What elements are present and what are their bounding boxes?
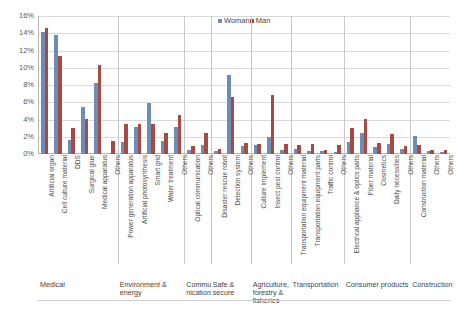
group-label: Construction — [412, 281, 450, 289]
bar-group — [317, 16, 330, 154]
category-label-slot: Others — [237, 155, 250, 259]
bar-man — [284, 144, 288, 154]
bar-group — [51, 16, 64, 154]
bar-man — [124, 124, 128, 154]
y-axis-tick-label: 16% — [2, 12, 34, 20]
bar-man — [164, 133, 168, 154]
category-label-slot: Artificial organ — [38, 155, 51, 259]
y-axis-tick-label: 10% — [2, 64, 34, 72]
category-label-slot: Electrical appliance & optics parts — [344, 155, 357, 259]
category-label-slot: Insect pest control — [264, 155, 277, 259]
bar-man — [111, 141, 115, 154]
bar-group — [424, 16, 437, 154]
group-label: Agriculture, forestry & fisheries — [253, 281, 291, 306]
bar-group — [184, 16, 197, 154]
bar-group — [331, 16, 344, 154]
bar-man — [297, 145, 301, 154]
bar-group — [437, 16, 450, 154]
bar-man — [350, 128, 354, 154]
y-axis-tick-label: 14% — [2, 29, 34, 37]
group-label: Transportation — [293, 281, 344, 289]
bar-man — [271, 95, 275, 155]
bar-man — [324, 150, 328, 154]
y-axis-tick-label: 12% — [2, 47, 34, 55]
bar-group — [171, 16, 184, 154]
bar-man — [430, 150, 434, 154]
bar-man — [444, 150, 448, 154]
bar-man — [98, 65, 102, 154]
plot-area — [38, 16, 450, 154]
y-axis-tick-label: 4% — [2, 116, 34, 124]
bar-man — [85, 119, 89, 154]
category-label-slot: Surgical glue — [78, 155, 91, 259]
category-label-slot: Disaster rescue robot — [211, 155, 224, 259]
y-axis-tick-label: 6% — [2, 98, 34, 106]
bar-group — [198, 16, 211, 154]
bar-group — [264, 16, 277, 154]
bar-group — [237, 16, 250, 154]
category-label-slot: Transportation equipment material — [291, 155, 304, 259]
group-label: Commu nication — [186, 281, 211, 297]
bar-group — [144, 16, 157, 154]
bar-group — [91, 16, 104, 154]
bar-man — [257, 144, 261, 154]
bar-man — [377, 143, 381, 154]
bar-man — [404, 146, 408, 154]
category-label-slot: Construction material — [410, 155, 423, 259]
bar-man — [45, 28, 49, 154]
bar-chart: 16%14%12%10%8%6%4%2%0% WomanMan Artifici… — [0, 0, 456, 316]
bar-group — [224, 16, 237, 154]
bar-man — [311, 144, 315, 154]
category-label-slot: Optical communication — [184, 155, 197, 259]
bar-group — [370, 16, 383, 154]
category-label-slot: Fiber material — [357, 155, 370, 259]
category-label-slot: Cell culture material — [51, 155, 64, 259]
category-label-slot: Others — [198, 155, 211, 259]
category-label-slot: Water treatment — [158, 155, 171, 259]
bar-group — [118, 16, 131, 154]
category-label-slot: Others — [277, 155, 290, 259]
bar-group — [104, 16, 117, 154]
bar-group — [158, 16, 171, 154]
category-label-slot: Power generation apparatus — [118, 155, 131, 259]
category-label-slot: Others — [424, 155, 437, 259]
bar-groups — [38, 16, 450, 154]
group-labels: MedicalEnvironment & energyCommu nicatio… — [38, 281, 450, 305]
category-label-slot: DDS — [65, 155, 78, 259]
category-label-slot: Daily necessities — [384, 155, 397, 259]
category-label-slot: Transportation equipment parts — [304, 155, 317, 259]
bar-group — [78, 16, 91, 154]
bar-group — [211, 16, 224, 154]
bar-group — [304, 16, 317, 154]
category-label-slot: Others — [171, 155, 184, 259]
x-axis-category-labels: Artificial organCell culture materialDDS… — [38, 155, 450, 259]
category-label-slot: Artificial photosynthesis — [131, 155, 144, 259]
category-label-slot: Medical apparatus — [91, 155, 104, 259]
category-label-slot: Culture implement — [251, 155, 264, 259]
bar-man — [337, 145, 341, 154]
category-label-slot: Others — [104, 155, 117, 259]
bar-group — [251, 16, 264, 154]
group-label: Environment & energy — [120, 281, 184, 297]
y-axis-tick-label: 8% — [2, 81, 34, 89]
group-label: Safe & secure — [213, 281, 251, 297]
bar-group — [384, 16, 397, 154]
category-label-slot: Traffic control — [317, 155, 330, 259]
bar-group — [357, 16, 370, 154]
bar-man — [58, 56, 62, 154]
bar-group — [65, 16, 78, 154]
bar-group — [344, 16, 357, 154]
bar-man — [138, 124, 142, 154]
bar-man — [191, 146, 195, 154]
bar-man — [244, 143, 248, 154]
bar-group — [277, 16, 290, 154]
group-label: Medical — [40, 281, 118, 289]
bottom-rule — [38, 300, 450, 301]
category-label: Others — [447, 155, 454, 175]
bar-man — [218, 149, 222, 154]
category-label-slot: Smart grid — [144, 155, 157, 259]
y-axis-tick-label: 2% — [2, 133, 34, 141]
bar-man — [178, 115, 182, 154]
category-label-slot: Others — [437, 155, 450, 259]
y-axis-tick-label: 0% — [2, 150, 34, 158]
